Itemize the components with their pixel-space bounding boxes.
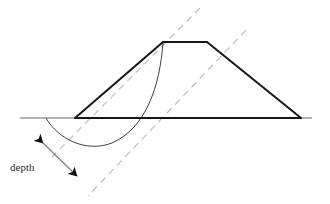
depth-dimension-line [43, 143, 77, 176]
depth-label: depth [10, 161, 35, 173]
embankment-left-slope [75, 42, 163, 118]
embankment-right-slope [207, 42, 301, 118]
diagram-canvas: depth [0, 0, 330, 204]
embankment-slip-surface-diagram: depth [0, 0, 330, 204]
